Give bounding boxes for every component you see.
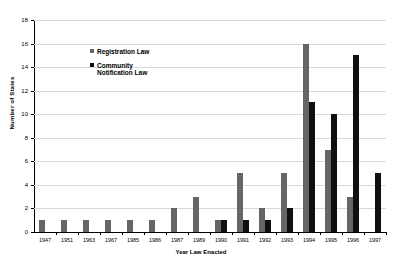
y-axis-tick-label: 8 xyxy=(2,135,28,141)
bar-group xyxy=(364,20,386,232)
y-axis-tick-label: 12 xyxy=(2,88,28,94)
bar-group xyxy=(232,20,254,232)
x-axis-tick-mark xyxy=(254,232,255,235)
x-axis-tick-mark xyxy=(166,232,167,235)
bar-community-notification-law xyxy=(331,114,337,232)
legend-swatch-icon xyxy=(90,63,94,67)
bar-community-notification-law xyxy=(221,220,227,232)
x-axis-tick-mark xyxy=(364,232,365,235)
bar-group xyxy=(320,20,342,232)
y-axis-title: Number of States xyxy=(9,43,15,163)
x-axis-tick-mark xyxy=(320,232,321,235)
x-axis-tick-mark xyxy=(100,232,101,235)
y-axis-tick-label: 18 xyxy=(2,17,28,23)
y-axis-tick-label: 14 xyxy=(2,64,28,70)
bar-group xyxy=(276,20,298,232)
bar-registration-law xyxy=(105,220,111,232)
y-axis-tick-label: 2 xyxy=(2,205,28,211)
bar-registration-law xyxy=(83,220,89,232)
x-axis-tick-mark xyxy=(342,232,343,235)
x-axis-tick-mark xyxy=(210,232,211,235)
bar-registration-law xyxy=(127,220,133,232)
y-axis-tick-label: 16 xyxy=(2,41,28,47)
bar-registration-law xyxy=(171,208,177,232)
bar-group xyxy=(210,20,232,232)
bar-group xyxy=(254,20,276,232)
bar-group xyxy=(342,20,364,232)
y-axis-tick-label: 4 xyxy=(2,182,28,188)
y-axis-tick-label: 10 xyxy=(2,111,28,117)
x-axis-tick-mark xyxy=(188,232,189,235)
y-axis-tick-mark xyxy=(31,232,34,233)
bar-group xyxy=(298,20,320,232)
bar-registration-law xyxy=(39,220,45,232)
bar-chart: Number of States 024681012141618 1947195… xyxy=(0,0,402,272)
legend-item-registration-law: Registration Law xyxy=(90,48,149,56)
legend-item-community-notification-law: Community Notification Law xyxy=(90,62,149,77)
x-axis-tick-mark xyxy=(276,232,277,235)
bar-community-notification-law xyxy=(265,220,271,232)
x-axis-tick-mark xyxy=(122,232,123,235)
x-axis-tick-mark xyxy=(386,232,387,235)
x-axis-tick-mark xyxy=(232,232,233,235)
bar-registration-law xyxy=(149,220,155,232)
bar-group xyxy=(188,20,210,232)
bar-community-notification-law xyxy=(309,102,315,232)
x-axis-tick-mark xyxy=(56,232,57,235)
bar-group xyxy=(166,20,188,232)
legend-swatch-icon xyxy=(90,49,94,53)
legend-label: Registration Law xyxy=(97,48,149,56)
x-axis-tick-label: 1997 xyxy=(360,237,390,243)
bar-community-notification-law xyxy=(243,220,249,232)
x-axis-tick-mark xyxy=(144,232,145,235)
bars-layer xyxy=(34,20,386,232)
bar-community-notification-law xyxy=(375,173,381,232)
bar-registration-law xyxy=(193,197,199,232)
bar-community-notification-law xyxy=(287,208,293,232)
x-axis-tick-mark xyxy=(298,232,299,235)
x-axis-tick-mark xyxy=(78,232,79,235)
legend: Registration Law Community Notification … xyxy=(90,48,149,83)
legend-label: Community Notification Law xyxy=(97,62,147,77)
x-axis-title: Year Law Enacted xyxy=(0,249,402,255)
bar-group xyxy=(34,20,56,232)
y-axis-tick-label: 0 xyxy=(2,229,28,235)
bar-community-notification-law xyxy=(353,55,359,232)
bar-registration-law xyxy=(61,220,67,232)
bar-group xyxy=(56,20,78,232)
y-axis-tick-label: 6 xyxy=(2,158,28,164)
